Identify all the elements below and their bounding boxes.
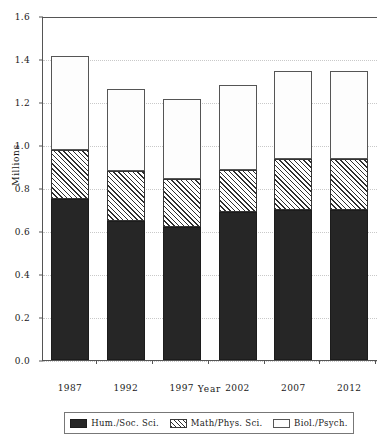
bar-segment-math-2007[interactable]: [274, 159, 312, 210]
bar-segment-math-2002[interactable]: [219, 170, 257, 212]
y-tick-mark: [39, 275, 43, 276]
y-tick-mark: [39, 318, 43, 319]
y-tick-label: 1.0: [0, 141, 30, 151]
bar-2012[interactable]: [330, 71, 368, 360]
y-tick-mark: [39, 103, 43, 104]
bar-2007[interactable]: [274, 71, 312, 360]
legend-item-math: Math/Phys. Sci.: [170, 418, 263, 428]
y-tick-label: 0.2: [0, 313, 30, 323]
x-tick-mark: [208, 360, 209, 364]
y-tick-mark: [39, 232, 43, 233]
y-gridline: [43, 146, 377, 147]
y-tick-mark: [39, 60, 43, 61]
bar-segment-hum-1987[interactable]: [51, 199, 89, 360]
bar-segment-hum-1992[interactable]: [107, 221, 145, 360]
y-gridline: [43, 361, 377, 362]
bar-segment-biol-2002[interactable]: [219, 85, 257, 170]
y-gridline: [43, 232, 377, 233]
y-gridline: [43, 275, 377, 276]
bar-segment-math-2012[interactable]: [330, 159, 368, 210]
x-tick-mark: [96, 360, 97, 364]
x-axis-title: Year: [42, 384, 377, 394]
bar-segment-hum-2007[interactable]: [274, 210, 312, 361]
y-tick-mark: [39, 361, 43, 362]
bar-segment-biol-2012[interactable]: [330, 71, 368, 159]
plot-area: 0.00.20.40.60.81.01.21.41.61987199219972…: [42, 17, 377, 361]
y-gridline: [43, 17, 377, 18]
legend-item-hum: Hum./Soc. Sci.: [70, 418, 159, 428]
y-tick-label: 1.4: [0, 55, 30, 65]
bar-segment-math-1987[interactable]: [51, 150, 89, 198]
y-gridline: [43, 103, 377, 104]
bar-segment-hum-2002[interactable]: [219, 212, 257, 360]
legend-label-biol: Biol./Psych.: [294, 418, 348, 428]
x-tick-mark: [319, 360, 320, 364]
chart-legend: Hum./Soc. Sci. Math/Phys. Sci. Biol./Psy…: [64, 412, 354, 434]
y-tick-mark: [39, 146, 43, 147]
bar-segment-biol-1997[interactable]: [163, 99, 201, 180]
legend-label-hum: Hum./Soc. Sci.: [91, 418, 159, 428]
legend-swatch-biol-icon: [273, 419, 290, 428]
y-tick-mark: [39, 17, 43, 18]
legend-item-biol: Biol./Psych.: [273, 418, 348, 428]
bar-segment-hum-2012[interactable]: [330, 210, 368, 361]
bar-1987[interactable]: [51, 56, 89, 360]
y-tick-label: 0.0: [0, 356, 30, 366]
legend-swatch-math-icon: [170, 419, 187, 428]
x-tick-mark: [375, 360, 376, 364]
bar-segment-math-1992[interactable]: [107, 171, 145, 222]
chart-figure: Millions 0.00.20.40.60.81.01.21.41.61987…: [0, 0, 385, 444]
bar-1997[interactable]: [163, 99, 201, 360]
y-tick-label: 1.2: [0, 98, 30, 108]
legend-swatch-hum-icon: [70, 419, 87, 428]
bar-segment-biol-1992[interactable]: [107, 89, 145, 171]
legend-label-math: Math/Phys. Sci.: [191, 418, 263, 428]
x-tick-mark: [152, 360, 153, 364]
y-tick-label: 1.6: [0, 12, 30, 22]
bar-segment-math-1997[interactable]: [163, 179, 201, 226]
bar-2002[interactable]: [219, 85, 257, 360]
bar-segment-biol-1987[interactable]: [51, 56, 89, 151]
y-gridline: [43, 60, 377, 61]
y-tick-label: 0.6: [0, 227, 30, 237]
bar-1992[interactable]: [107, 89, 145, 360]
y-tick-mark: [39, 189, 43, 190]
bar-segment-biol-2007[interactable]: [274, 71, 312, 159]
y-tick-label: 0.4: [0, 270, 30, 280]
bar-segment-hum-1997[interactable]: [163, 227, 201, 360]
y-tick-label: 0.8: [0, 184, 30, 194]
x-tick-mark: [264, 360, 265, 364]
y-gridline: [43, 318, 377, 319]
y-gridline: [43, 189, 377, 190]
